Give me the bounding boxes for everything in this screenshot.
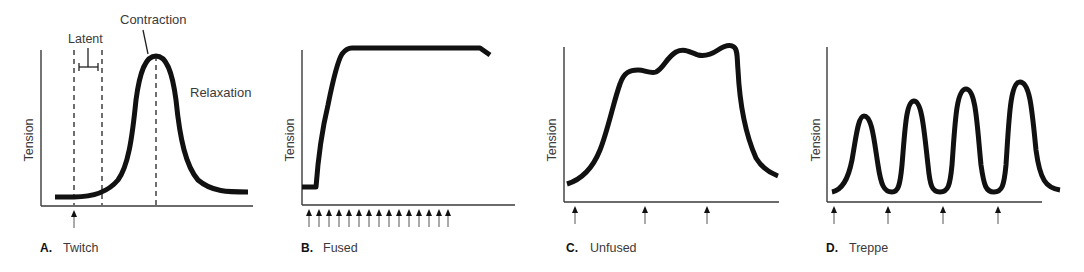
muscle-contraction-figure: Latent Contraction Relaxation Tension A.… — [0, 0, 1084, 272]
stimulus-arrow-icon — [704, 206, 710, 224]
stimulus-arrow-icon — [572, 206, 578, 224]
stimulus-arrow-icon — [396, 209, 402, 227]
stimulus-arrow-icon — [316, 209, 322, 227]
y-axis-label: Tension — [22, 118, 36, 161]
contraction-label: Contraction — [120, 12, 186, 27]
stimulus-arrow-icon — [306, 209, 312, 227]
y-axis-label: Tension — [809, 118, 823, 161]
panel-title: Fused — [323, 241, 358, 255]
unfused-tetanus-curve — [567, 46, 778, 184]
stimulus-arrow-icon — [366, 209, 372, 227]
panel-twitch: Latent Contraction Relaxation Tension A.… — [22, 12, 253, 255]
stimulus-arrow-icon — [416, 209, 422, 227]
stimulus-arrow-icon — [71, 210, 77, 228]
stimulus-arrows — [306, 209, 451, 227]
panel-letter: A. — [40, 241, 52, 255]
stimulus-arrow-icon — [940, 206, 946, 224]
y-axis-label: Tension — [545, 118, 559, 161]
panel-title: Unfused — [590, 241, 637, 255]
stimulus-arrow-icon — [376, 209, 382, 227]
contraction-leader-line — [143, 30, 148, 54]
stimulus-arrow-icon — [406, 209, 412, 227]
panel-unfused: Tension C. Unfused — [545, 46, 779, 255]
panel-treppe: Tension D. Treppe — [809, 47, 1060, 255]
stimulus-arrow-icon — [831, 206, 837, 224]
stimulus-arrow-icon — [436, 209, 442, 227]
stimulus-arrow-icon — [995, 206, 1001, 224]
twitch-curve — [55, 56, 248, 197]
panel-title: Twitch — [63, 241, 98, 255]
treppe-curve — [832, 82, 1060, 192]
panel-letter: D. — [826, 241, 838, 255]
stimulus-arrow-icon — [642, 206, 648, 224]
panel-letter: C. — [566, 241, 578, 255]
stimulus-arrow-icon — [885, 206, 891, 224]
y-axis-label: Tension — [283, 118, 297, 161]
stimulus-arrow-icon — [336, 209, 342, 227]
panel-title: Treppe — [849, 241, 888, 255]
relaxation-label: Relaxation — [190, 85, 251, 100]
latent-label: Latent — [68, 32, 103, 46]
stimulus-arrow-icon — [426, 209, 432, 227]
panel-letter: B. — [301, 241, 313, 255]
panel-fused: Tension B. Fused — [283, 48, 515, 255]
stimulus-arrow-icon — [445, 209, 451, 227]
fused-tetanus-curve — [302, 48, 490, 187]
stimulus-arrow-icon — [326, 209, 332, 227]
stimulus-arrow-icon — [346, 209, 352, 227]
latent-bracket — [79, 48, 98, 71]
stimulus-arrow-icon — [386, 209, 392, 227]
stimulus-arrow-icon — [356, 209, 362, 227]
